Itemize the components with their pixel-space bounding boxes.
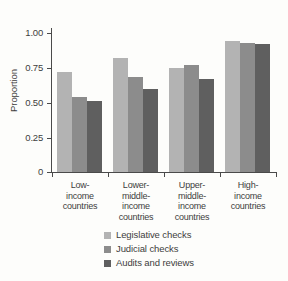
y-tick-label-0-50: 0.50 — [25, 98, 43, 108]
bar-group-lower-middle-income — [113, 33, 158, 172]
legend-label-legislative-checks: Legislative checks — [116, 230, 191, 240]
x-axis-label-high-income: High- income countries — [215, 180, 281, 212]
y-axis-title: Proportion — [8, 56, 19, 126]
legend-swatch-audits-and-reviews — [104, 260, 111, 267]
legend-swatch-legislative-checks — [104, 232, 111, 239]
y-tick-label-0-25: 0.25 — [25, 133, 43, 143]
x-tick-mark-1 — [108, 172, 109, 177]
bar-upper-middle-income-audits-and-reviews — [199, 79, 214, 172]
legend-item-legislative-checks: Legislative checks — [104, 228, 194, 242]
chart-legend: Legislative checks Judicial checks Audit… — [104, 228, 194, 270]
bar-chart-figure: 1.00 0.75 0.50 0.25 0 Proportion — [0, 0, 288, 281]
bar-low-income-legislative-checks — [57, 72, 72, 172]
bar-high-income-audits-and-reviews — [255, 44, 270, 172]
bar-lower-middle-income-audits-and-reviews — [143, 89, 158, 172]
bar-upper-middle-income-judicial-checks — [184, 65, 199, 172]
y-tick-label-0: 0 — [38, 167, 43, 177]
x-axis-label-high-income-line2: countries — [215, 201, 281, 212]
legend-swatch-judicial-checks — [104, 246, 111, 253]
bar-lower-middle-income-judicial-checks — [128, 77, 143, 172]
bar-high-income-judicial-checks — [240, 43, 255, 172]
x-axis-label-high-income-line0: High- — [215, 180, 281, 191]
bar-lower-middle-income-legislative-checks — [113, 58, 128, 172]
bar-group-low-income — [57, 33, 102, 172]
legend-label-audits-and-reviews: Audits and reviews — [116, 258, 194, 268]
legend-item-audits-and-reviews: Audits and reviews — [104, 256, 194, 270]
x-tick-mark-4 — [276, 172, 277, 177]
legend-item-judicial-checks: Judicial checks — [104, 242, 194, 256]
legend-label-judicial-checks: Judicial checks — [116, 244, 178, 254]
bar-low-income-audits-and-reviews — [87, 101, 102, 172]
bar-upper-middle-income-legislative-checks — [169, 68, 184, 172]
y-tick-label-1-00: 1.00 — [25, 28, 43, 38]
x-tick-mark-0 — [52, 172, 53, 177]
bar-group-upper-middle-income — [169, 33, 214, 172]
x-axis-label-high-income-line1: income — [215, 191, 281, 202]
x-tick-mark-3 — [220, 172, 221, 177]
bar-low-income-judicial-checks — [72, 97, 87, 172]
plot-area — [52, 33, 276, 172]
bar-high-income-legislative-checks — [225, 41, 240, 172]
x-axis-label-upper-middle-income-line3: countries — [159, 212, 225, 223]
y-tick-label-0-75: 0.75 — [25, 63, 43, 73]
bar-group-high-income — [225, 33, 270, 172]
x-tick-mark-2 — [164, 172, 165, 177]
